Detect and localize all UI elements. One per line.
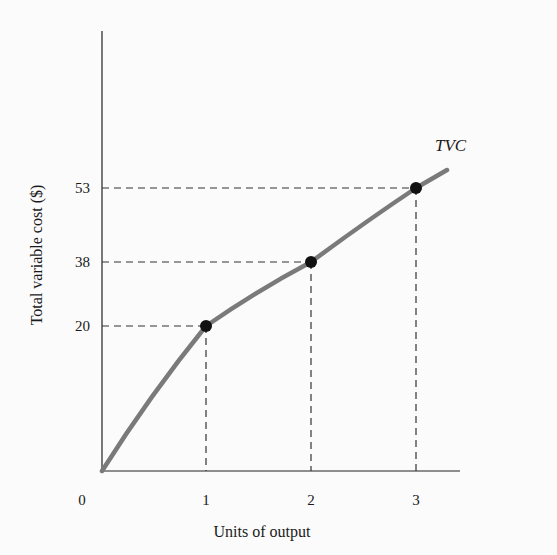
y-axis-label: Total variable cost ($) — [28, 185, 46, 326]
x-tick-2: 2 — [307, 492, 315, 508]
data-point-3 — [410, 182, 422, 194]
x-tick-1: 1 — [202, 492, 210, 508]
tvc-curve — [102, 170, 447, 471]
dashed-guides — [102, 188, 416, 471]
data-point-2 — [305, 256, 317, 268]
tvc-curve-label: TVC — [435, 136, 467, 155]
y-tick-38: 38 — [75, 254, 90, 270]
tvc-chart: 53 38 20 0 1 2 3 Units of output Total v… — [0, 0, 557, 555]
x-axis-label: Units of output — [214, 523, 311, 541]
y-tick-53: 53 — [75, 180, 90, 196]
y-tick-20: 20 — [75, 318, 90, 334]
x-tick-0: 0 — [78, 492, 86, 508]
data-point-1 — [200, 320, 212, 332]
x-tick-3: 3 — [412, 492, 420, 508]
